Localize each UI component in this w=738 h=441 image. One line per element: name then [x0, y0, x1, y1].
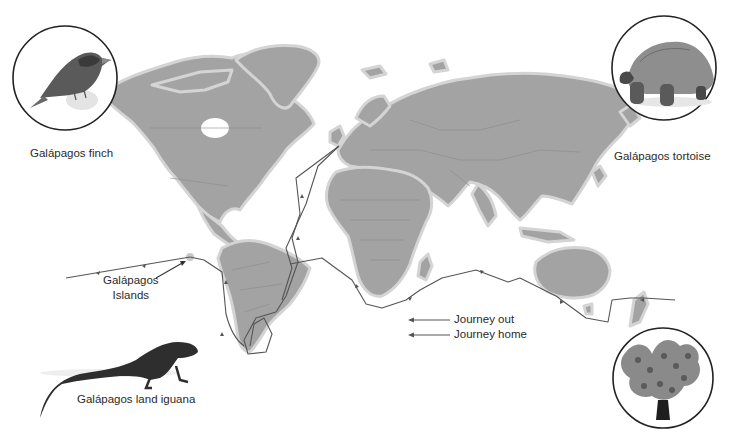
legend-arrows	[408, 318, 450, 338]
finch-inset	[13, 26, 117, 130]
australia	[535, 248, 648, 326]
south-america	[218, 241, 310, 352]
galapagos-pointer-arrow	[156, 262, 184, 278]
tortoise-inset	[612, 16, 716, 120]
iguana-caption: Galápagos land iguana	[77, 393, 195, 405]
galapagos-islands-label: Galápagos Islands	[103, 273, 159, 303]
finch-caption: Galápagos finch	[30, 147, 113, 159]
world-map	[0, 0, 738, 441]
cactus-inset	[613, 328, 713, 428]
iguana-icon	[40, 342, 198, 418]
tortoise-caption: Galápagos tortoise	[614, 150, 711, 162]
north-america	[100, 46, 319, 250]
legend-journey-home: Journey home	[454, 328, 527, 340]
galapagos-label-line2: Islands	[103, 288, 159, 303]
africa	[326, 167, 432, 296]
galapagos-label-line1: Galápagos	[103, 273, 159, 288]
legend-journey-out: Journey out	[454, 313, 514, 325]
